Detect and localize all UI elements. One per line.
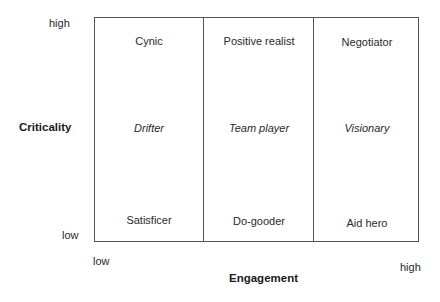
x-axis-low-label: low [93,255,110,267]
y-axis-high-label: high [49,17,70,29]
cell-visionary: Visionary [344,122,389,134]
cell-drifter: Drifter [134,122,164,134]
cell-negotiator: Negotiator [342,36,393,48]
column-divider-1 [203,18,204,241]
cell-team-player: Team player [229,122,289,134]
cell-positive-realist: Positive realist [224,35,295,47]
cell-do-gooder: Do-gooder [233,215,285,227]
y-axis-low-label: low [62,229,79,241]
x-axis-high-label: high [400,261,421,273]
cell-cynic: Cynic [135,35,163,47]
column-divider-2 [313,18,314,241]
cell-satisficer: Satisficer [126,214,171,226]
typology-grid: Cynic Positive realist Negotiator Drifte… [94,17,419,242]
cell-aid-hero: Aid hero [347,217,388,229]
x-axis-title: Engagement [229,272,298,284]
y-axis-title: Criticality [19,121,71,133]
